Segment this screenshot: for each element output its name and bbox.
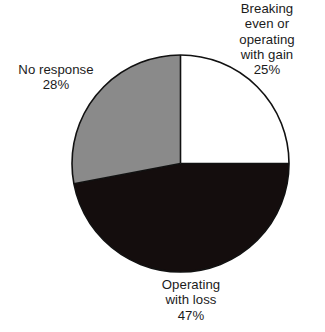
pie-slice-operating-with-loss[interactable] [74, 164, 289, 272]
pie-chart: Breaking even or operating with gain 25%… [0, 0, 325, 332]
pie-label-operating-with-loss: Operating with loss 47% [139, 277, 243, 323]
pie-label-no-response: No response 28% [6, 62, 106, 93]
pie-label-breaking-even-or-operating-with-gain: Breaking even or operating with gain 25% [213, 1, 321, 77]
